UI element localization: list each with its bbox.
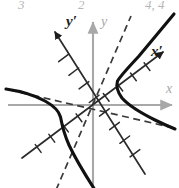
hyperbola-right-branch [117,14,175,129]
x-axis-label: x [166,82,172,96]
x-prime-axis-label: x′ [151,44,163,59]
plot-canvas [0,0,179,188]
hyperbola-figure: 3 2 4, 4 [0,0,179,188]
y-axis-label: y [101,15,107,29]
y-prime-axis-label: y′ [66,14,77,29]
hyperbola-left-branch [6,89,95,188]
